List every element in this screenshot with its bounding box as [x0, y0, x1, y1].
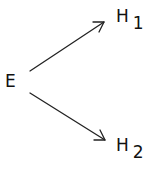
node-h1: H1 — [116, 8, 144, 25]
diagram-canvas: E H1 H2 — [0, 0, 154, 169]
edge-e-to-h2 — [30, 93, 105, 140]
edge-line — [30, 93, 105, 140]
node-subscript: 2 — [133, 142, 144, 162]
node-h2: H2 — [116, 137, 144, 154]
node-e: E — [5, 73, 16, 90]
node-label: E — [5, 71, 16, 91]
node-label: H — [116, 135, 129, 155]
node-label: H — [116, 6, 129, 26]
node-subscript: 1 — [133, 13, 144, 33]
edge-line — [30, 22, 104, 71]
edge-e-to-h1 — [30, 22, 104, 71]
